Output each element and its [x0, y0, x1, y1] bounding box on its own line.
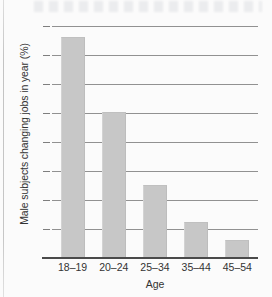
y-axis-tick-mark	[43, 55, 50, 56]
x-axis-title: Age	[52, 278, 258, 290]
bar-slot	[134, 26, 175, 258]
x-axis-tick-label: 20–24	[93, 261, 134, 273]
bar-slot	[52, 26, 93, 258]
bar-slot	[217, 26, 258, 258]
plot-area: 4035302520151050	[52, 26, 258, 258]
x-axis-tick-label: 35–44	[176, 261, 217, 273]
bar-slot	[93, 26, 134, 258]
x-axis-tick-label: 45–54	[217, 261, 258, 273]
bar-chart-figure: Male subjects changing jobs in year (%) …	[0, 0, 272, 297]
x-axis-line	[42, 257, 258, 259]
x-axis-tick-labels: 18–1920–2425–3435–4445–54	[52, 261, 258, 273]
x-axis-tick-label: 18–19	[52, 261, 93, 273]
y-axis-tick-mark	[43, 229, 50, 230]
bar	[184, 222, 208, 258]
x-axis-tick-label: 25–34	[134, 261, 175, 273]
y-axis-tick-mark	[43, 26, 50, 27]
y-axis-tick-mark	[43, 113, 50, 114]
bar	[102, 112, 126, 258]
bars-group	[52, 26, 258, 258]
scan-ghost-text	[34, 1, 262, 12]
bar	[61, 37, 85, 258]
bar	[225, 240, 249, 258]
y-axis-tick-mark	[43, 142, 50, 143]
bar-slot	[176, 26, 217, 258]
y-axis-tick-mark	[43, 200, 50, 201]
y-axis-tick-mark	[43, 84, 50, 85]
y-axis-title: Male subjects changing jobs in year (%)	[18, 27, 30, 242]
y-axis-tick-mark	[43, 171, 50, 172]
page-edge-line	[3, 0, 4, 297]
bar	[143, 185, 167, 259]
